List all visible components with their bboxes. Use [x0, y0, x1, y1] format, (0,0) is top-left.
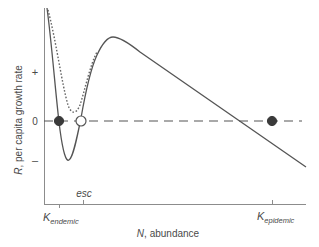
y-tick-zero: 0: [32, 116, 38, 127]
dotted-growth-curve: [48, 10, 97, 112]
k-endemic-point: [54, 116, 63, 125]
y-axis-label: R, per capita growth rate: [13, 65, 24, 175]
x-tick-label-k-endemic: Kendemic: [43, 211, 79, 226]
y-tick-plus: +: [32, 66, 38, 78]
x-axis-label: N, abundance: [137, 228, 200, 239]
solid-growth-curve: [47, 8, 306, 167]
k-epidemic-point: [267, 116, 276, 125]
escape-threshold-point: [76, 116, 86, 126]
x-tick-label-k-epidemic: Kepidemic: [257, 210, 295, 225]
x-tick-label-esc: esc: [76, 188, 92, 199]
y-tick-minus: –: [32, 154, 39, 166]
growth-rate-diagram: + 0 – R, per capita growth rate esc Kend…: [0, 0, 319, 247]
